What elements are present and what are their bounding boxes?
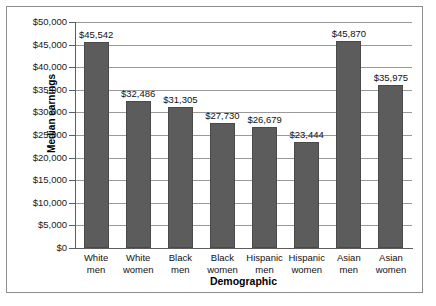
x-axis-category-label-line: women (365, 264, 417, 276)
x-axis-title: Demographic (75, 275, 412, 287)
y-axis-tick-label: $15,000 (33, 175, 67, 185)
bar (252, 127, 277, 248)
gridline (75, 67, 412, 68)
y-axis-line (75, 22, 76, 249)
bar (126, 101, 151, 248)
bar-value-label: $26,679 (235, 114, 295, 125)
x-axis-line (75, 248, 413, 249)
bar-value-label: $31,305 (150, 94, 210, 105)
y-axis-tick-label: $5,000 (38, 220, 67, 230)
bar-value-label: $23,444 (277, 129, 337, 140)
y-axis-tick-label: $10,000 (33, 198, 67, 208)
bar (378, 85, 403, 248)
y-axis-title: Median earnings (46, 54, 57, 174)
bar (336, 41, 361, 248)
y-axis-tick-label: $45,000 (33, 40, 67, 50)
bar (294, 142, 319, 248)
y-axis-tick-labels: $0$5,000$10,000$15,000$20,000$25,000$30,… (0, 0, 67, 306)
x-axis-category-label: Asianwomen (365, 252, 417, 275)
gridline (75, 45, 412, 46)
y-axis-tick-label: $50,000 (33, 17, 67, 27)
plot-area: $45,542$32,486$31,305$27,730$26,679$23,4… (75, 22, 412, 248)
bar-value-label: $35,975 (361, 72, 421, 83)
chart-figure: $0$5,000$10,000$15,000$20,000$25,000$30,… (0, 0, 436, 306)
bar-value-label: $45,870 (319, 28, 379, 39)
bar (210, 123, 235, 248)
bar (168, 107, 193, 248)
bar (84, 42, 109, 248)
gridline (75, 22, 412, 23)
y-axis-tick-label: $0 (56, 243, 67, 253)
x-axis-category-label-line: Asian (365, 252, 417, 264)
